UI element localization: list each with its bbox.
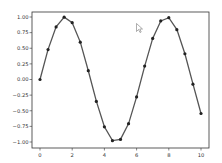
y-tick-label: 0.25 — [17, 61, 29, 67]
y-tick-label: 1.00 — [17, 14, 29, 20]
data-point — [79, 41, 82, 44]
mouse-pointer-icon — [136, 23, 144, 33]
data-point — [127, 122, 130, 125]
y-axis-ticks: 1.000.750.500.250.00−0.25−0.50−0.75−1.00 — [13, 14, 32, 145]
x-tick-label: 6 — [135, 152, 138, 158]
data-point — [71, 21, 74, 24]
x-tick-label: 2 — [71, 152, 74, 158]
data-point — [135, 95, 138, 98]
y-tick-label: −0.25 — [13, 92, 29, 98]
y-tick-label: −0.50 — [13, 108, 29, 114]
data-point — [119, 138, 122, 141]
data-point — [183, 52, 186, 55]
y-tick-label: 0.00 — [17, 76, 29, 82]
data-point — [151, 37, 154, 40]
x-axis-ticks: 0246810 — [38, 148, 204, 158]
x-tick-label: 8 — [167, 152, 170, 158]
data-point — [95, 100, 98, 103]
data-point — [87, 69, 90, 72]
data-point — [199, 112, 202, 115]
x-tick-label: 4 — [103, 152, 107, 158]
data-point — [63, 16, 66, 19]
y-tick-label: 0.75 — [17, 29, 29, 35]
y-tick-label: −1.00 — [13, 139, 29, 145]
data-point — [159, 19, 162, 22]
data-point — [167, 16, 170, 19]
plot-area — [32, 12, 209, 148]
data-point — [111, 139, 114, 142]
sine-line-chart: 1.000.750.500.250.00−0.25−0.50−0.75−1.00… — [0, 0, 222, 163]
data-point — [191, 83, 194, 86]
data-point — [175, 28, 178, 31]
data-point — [143, 64, 146, 67]
data-point — [46, 48, 49, 51]
data-point — [38, 78, 41, 81]
data-point — [103, 125, 106, 128]
y-tick-label: −0.75 — [13, 123, 29, 129]
x-tick-label: 10 — [198, 152, 205, 158]
data-point — [55, 25, 58, 28]
y-tick-label: 0.50 — [17, 45, 29, 51]
x-tick-label: 0 — [38, 152, 41, 158]
